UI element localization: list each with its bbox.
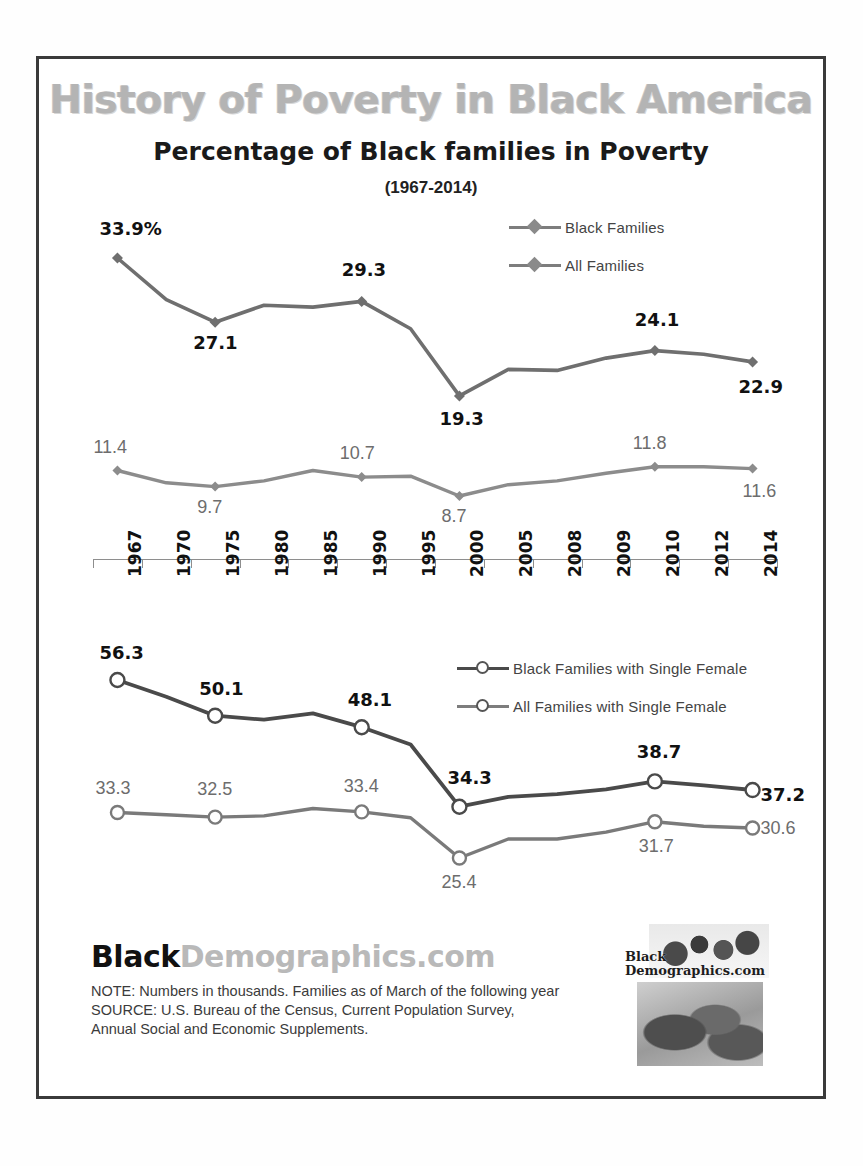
footnote-block: NOTE: Numbers in thousands. Families as … xyxy=(91,982,561,1039)
data-label-black-families-1975: 27.1 xyxy=(193,332,237,353)
x-axis-year-2005: 2005 xyxy=(516,530,536,577)
x-axis-year-1975: 1975 xyxy=(223,530,243,577)
data-label-all-families-2014: 11.6 xyxy=(743,481,777,502)
x-axis-tick xyxy=(93,559,94,568)
circle-marker-icon xyxy=(457,699,509,713)
data-label-all-families-with-single-female-2010: 31.7 xyxy=(639,836,674,857)
badge-photo-bottom xyxy=(637,982,763,1066)
top-chart-legend: Black Families All Families xyxy=(509,214,665,290)
x-axis-year-2009: 2009 xyxy=(614,530,634,577)
data-label-black-families-2010: 24.1 xyxy=(635,309,679,330)
x-axis-year-2008: 2008 xyxy=(565,530,585,577)
data-label-black-families-2000: 19.3 xyxy=(439,408,483,429)
chart-year-span: (1967-2014) xyxy=(39,178,823,198)
data-label-black-families-with-single-female-1967: 56.3 xyxy=(99,642,143,663)
data-label-black-families-1990: 29.3 xyxy=(342,259,386,280)
x-axis-year-2012: 2012 xyxy=(712,530,732,577)
x-axis-year-1985: 1985 xyxy=(321,530,341,577)
data-label-black-families-2014: 22.9 xyxy=(739,376,783,397)
data-label-all-families-with-single-female-2014: 30.6 xyxy=(761,818,796,839)
legend-label: All Families xyxy=(565,257,644,274)
x-axis-year-2010: 2010 xyxy=(663,530,683,577)
data-label-black-families-with-single-female-2014: 37.2 xyxy=(761,784,805,805)
brand-logo-demographics: Demographics.com xyxy=(180,939,495,974)
data-label-black-families-with-single-female-2010: 38.7 xyxy=(637,741,681,762)
bottom-chart-legend: Black Families with Single Female All Fa… xyxy=(457,655,747,731)
x-axis-year-1990: 1990 xyxy=(370,530,390,577)
data-label-all-families-1967: 11.4 xyxy=(93,437,127,458)
data-label-all-families-2000: 8.7 xyxy=(441,506,466,527)
brand-logo-black: Black xyxy=(91,939,180,974)
data-label-all-families-with-single-female-2000: 25.4 xyxy=(441,872,476,893)
badge-line-1: Black xyxy=(625,950,775,964)
legend-item-black-families[interactable]: Black Families xyxy=(509,214,665,240)
data-label-all-families-1990: 10.7 xyxy=(340,443,375,464)
x-axis-year-1980: 1980 xyxy=(272,530,292,577)
brand-logo: BlackDemographics.com xyxy=(91,939,495,974)
data-label-black-families-with-single-female-1990: 48.1 xyxy=(348,689,392,710)
data-label-black-families-1967: 33.9% xyxy=(99,218,161,239)
data-label-all-families-with-single-female-1975: 32.5 xyxy=(197,779,232,800)
badge-line-2: Demographics.com xyxy=(625,964,775,978)
x-axis-year-2000: 2000 xyxy=(467,530,487,577)
diamond-marker-icon xyxy=(509,220,561,234)
banner-title: History of Poverty in Black America xyxy=(39,77,823,122)
data-label-all-families-1975: 9.7 xyxy=(197,497,222,518)
legend-item-all-families[interactable]: All Families xyxy=(509,252,665,278)
x-axis-year-1967: 1967 xyxy=(125,530,145,577)
footnote-note: NOTE: Numbers in thousands. Families as … xyxy=(91,982,561,1001)
data-label-all-families-with-single-female-1967: 33.3 xyxy=(95,778,130,799)
brand-badge: Black Demographics.com xyxy=(625,924,773,1066)
legend-label: Black Families xyxy=(565,219,665,236)
data-label-black-families-with-single-female-2000: 34.3 xyxy=(447,767,491,788)
poster-frame: History of Poverty in Black America Perc… xyxy=(36,56,826,1099)
diamond-marker-icon xyxy=(509,258,561,272)
legend-item-all-single-female[interactable]: All Families with Single Female xyxy=(457,693,747,719)
poster-page: History of Poverty in Black America Perc… xyxy=(0,0,863,1166)
chart-subtitle: Percentage of Black families in Poverty xyxy=(39,137,823,166)
circle-marker-icon xyxy=(457,661,509,675)
data-label-all-families-with-single-female-1990: 33.4 xyxy=(344,776,379,797)
x-axis-year-1970: 1970 xyxy=(174,530,194,577)
legend-item-black-single-female[interactable]: Black Families with Single Female xyxy=(457,655,747,681)
data-label-all-families-2010: 11.8 xyxy=(633,433,667,454)
x-axis-year-2014: 2014 xyxy=(761,530,781,577)
footnote-source: SOURCE: U.S. Bureau of the Census, Curre… xyxy=(91,1001,561,1039)
x-axis-year-1995: 1995 xyxy=(419,530,439,577)
legend-label: Black Families with Single Female xyxy=(513,660,747,677)
data-label-black-families-with-single-female-1975: 50.1 xyxy=(199,678,243,699)
legend-label: All Families with Single Female xyxy=(513,698,727,715)
badge-name: Black Demographics.com xyxy=(625,950,775,978)
